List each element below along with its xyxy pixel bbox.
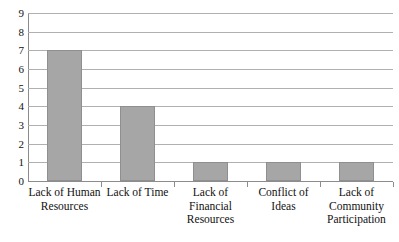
x-category-label: Lack ofFinancialResources <box>174 186 247 227</box>
x-category-label-line: Resources <box>28 200 101 214</box>
y-tick-label-0: 0 <box>0 176 24 187</box>
x-category-label-line: Financial <box>174 200 247 214</box>
gridline-2 <box>28 144 393 145</box>
gridline-6 <box>28 69 393 70</box>
gridline-3 <box>28 125 393 126</box>
x-tick-5 <box>393 182 394 187</box>
x-category-label-line: Lack of <box>174 186 247 200</box>
gridline-7 <box>28 50 393 51</box>
x-category-label: Lack of HumanResources <box>28 186 101 213</box>
gridline-5 <box>28 88 393 89</box>
bar <box>193 162 228 181</box>
gridline-0 <box>28 181 393 182</box>
y-tick-label-8: 8 <box>0 27 24 38</box>
y-tick-label-9: 9 <box>0 8 24 19</box>
bar <box>120 106 155 181</box>
bar-chart: 0123456789 Lack of HumanResourcesLack of… <box>0 0 399 242</box>
x-category-label-line: Lack of Time <box>101 186 174 200</box>
x-category-label-line: Lack of Human <box>28 186 101 200</box>
gridline-9 <box>28 13 393 14</box>
bar <box>339 162 374 181</box>
gridline-4 <box>28 106 393 107</box>
x-category-label-line: Conflict of <box>247 186 320 200</box>
x-category-label-line: Resources <box>174 213 247 227</box>
x-category-label: Lack of Time <box>101 186 174 200</box>
y-tick-label-1: 1 <box>0 157 24 168</box>
y-tick-label-4: 4 <box>0 101 24 112</box>
plot-area <box>28 13 393 181</box>
y-tick-label-2: 2 <box>0 139 24 150</box>
x-axis-labels: Lack of HumanResourcesLack of TimeLack o… <box>28 186 393 242</box>
y-tick-label-5: 5 <box>0 83 24 94</box>
x-category-label: Lack ofCommunityParticipation <box>320 186 393 227</box>
x-category-label: Conflict ofIdeas <box>247 186 320 213</box>
x-category-label-line: Participation <box>320 213 393 227</box>
x-category-label-line: Community <box>320 200 393 214</box>
x-category-label-line: Lack of <box>320 186 393 200</box>
y-tick-label-3: 3 <box>0 120 24 131</box>
bar <box>47 50 82 181</box>
y-tick-label-7: 7 <box>0 45 24 56</box>
bar <box>266 162 301 181</box>
y-tick-label-6: 6 <box>0 64 24 75</box>
x-category-label-line: Ideas <box>247 200 320 214</box>
y-axis-labels: 0123456789 <box>0 0 24 242</box>
gridline-8 <box>28 32 393 33</box>
